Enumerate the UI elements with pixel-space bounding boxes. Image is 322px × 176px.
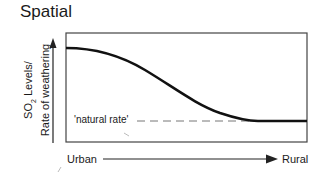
- x-axis-label-urban: Urban: [67, 153, 97, 165]
- natural-rate-label: 'natural rate': [74, 114, 128, 125]
- y-axis-arrowhead-icon: [50, 38, 57, 48]
- so2-curve: [66, 48, 307, 121]
- plot-area: [0, 0, 322, 176]
- stray-mark: [58, 167, 61, 172]
- x-axis-label-rural: Rural: [282, 153, 308, 165]
- plot-frame: [66, 33, 307, 142]
- x-axis-arrowhead-icon: [266, 155, 278, 164]
- stray-mark: [124, 133, 129, 136]
